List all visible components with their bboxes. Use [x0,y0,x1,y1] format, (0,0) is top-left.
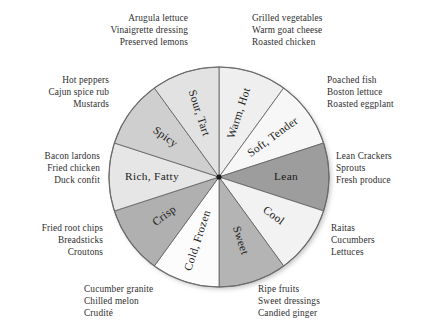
note-friedroot-group: Fried root chips Breadsticks Croutons [0,222,103,259]
wheel-graphic: Warm, HotSoft, TenderLeanCoolSweetCold, … [106,64,332,290]
note-raitas-group: Raitas Cucumbers Lettuces [331,222,434,259]
flavor-wheel-diagram: Arugula lettuce Vinaigrette dressing Pre… [0,0,436,332]
wheel-svg: Warm, HotSoft, TenderLeanCoolSweetCold, … [106,64,332,290]
wheel-segment-label: Lean [274,170,298,182]
note-poachedfish-group: Poached fish Boston lettuce Roasted eggp… [327,74,436,111]
note-arugula-group: Arugula lettuce Vinaigrette dressing Pre… [0,12,188,49]
wheel-hub [216,174,221,179]
note-leancrackers-group: Lean Crackers Sprouts Fresh produce [336,150,436,187]
note-hotpeppers-group: Hot peppers Cajun spice rub Mustards [0,74,109,111]
note-grilled-group: Grilled vegetables Warm goat cheese Roas… [252,12,436,49]
wheel-segment-label: Rich, Fatty [125,170,179,182]
note-bacon-group: Bacon lardons Fried chicken Duck confit [0,150,100,187]
